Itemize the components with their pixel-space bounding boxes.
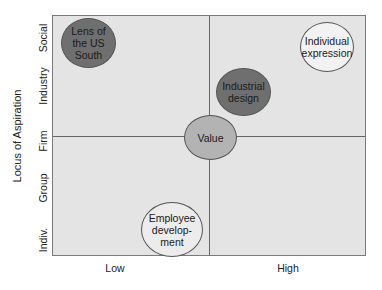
y-tick-indiv: Indiv.	[37, 228, 49, 252]
label-line: Employee	[149, 212, 196, 224]
ellipse-industrial-design: Industrial design	[216, 68, 271, 116]
label-line: Industrial	[222, 80, 265, 92]
label-line: South	[71, 49, 105, 61]
y-tick-social: Social	[37, 24, 49, 53]
x-tick-high: High	[277, 262, 299, 274]
y-tick-industry: Industry	[37, 67, 49, 104]
label-line: expression	[302, 47, 353, 59]
y-axis-title: Locus of Aspiration	[11, 90, 23, 183]
label-line: Lens of	[71, 25, 105, 37]
label-line: Value	[197, 132, 223, 144]
label-line: develop-	[149, 224, 196, 236]
label-line: Individual	[302, 35, 353, 47]
label-line: design	[222, 92, 265, 104]
x-axis-title-clipped	[165, 286, 255, 290]
ellipse-lens-of-the-us-south: Lens of the US South	[61, 18, 116, 68]
label-line: the US	[71, 37, 105, 49]
ellipse-value: Value	[184, 115, 237, 160]
label-line: ment	[149, 236, 196, 248]
ellipse-individual-expression: Individual expression	[300, 22, 354, 72]
ellipse-employee-development: Employee develop- ment	[141, 202, 203, 257]
quadrant-plot: Lens of the US South Individual expressi…	[52, 15, 366, 256]
y-tick-group: Group	[37, 173, 49, 202]
y-tick-firm: Firm	[37, 131, 49, 152]
x-tick-low: Low	[105, 262, 124, 274]
